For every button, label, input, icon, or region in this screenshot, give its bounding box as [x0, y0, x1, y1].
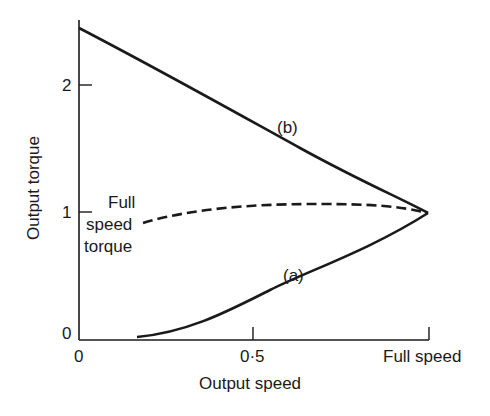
- x-axis-label: Output speed: [199, 374, 301, 393]
- y-tick-label-1: 1: [62, 203, 71, 222]
- x-tick-label-0: 0: [74, 347, 83, 366]
- torque-speed-chart: 2 1 0 0 0·5 Full speed Output speed Outp…: [0, 0, 490, 416]
- y-tick-label-2: 2: [62, 76, 71, 95]
- full-speed-torque-label-line1: Full: [108, 193, 135, 212]
- curve-a-label: (a): [283, 266, 304, 285]
- x-tick-label-half: 0·5: [240, 347, 265, 366]
- curve-b: [79, 28, 428, 213]
- full-speed-torque-label-line2: speed: [86, 215, 132, 234]
- full-speed-torque-curve: [143, 204, 428, 223]
- y-axis-label: Output torque: [24, 136, 43, 240]
- x-tick-label-full: Full speed: [383, 347, 461, 366]
- y-tick-label-0: 0: [62, 324, 71, 343]
- full-speed-torque-label-line3: torque: [84, 237, 132, 256]
- curve-b-label: (b): [277, 118, 298, 137]
